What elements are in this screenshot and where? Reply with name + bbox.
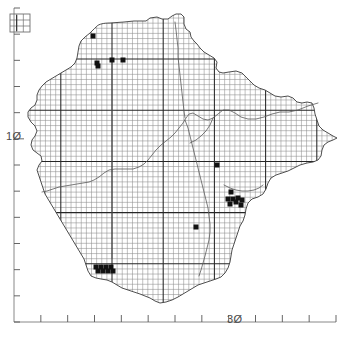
record-dot xyxy=(101,269,106,274)
map-grid xyxy=(0,0,342,337)
distribution-map-figure: 1Ø 3Ø xyxy=(0,0,342,337)
record-dot xyxy=(229,190,234,195)
record-dot xyxy=(96,64,101,69)
axis-lines xyxy=(14,8,336,322)
record-dot xyxy=(106,269,111,274)
y-axis-tick-label-10: 1Ø xyxy=(6,130,22,142)
map-canvas xyxy=(0,0,342,337)
locator-inset-frame xyxy=(10,14,30,32)
record-dot xyxy=(228,202,233,207)
internal-district-boundaries xyxy=(42,22,318,276)
record-dot xyxy=(121,58,126,63)
record-dot xyxy=(226,197,231,202)
record-dot xyxy=(111,269,116,274)
record-dot xyxy=(91,34,96,39)
x-axis-tick-label-30: 3Ø xyxy=(227,313,243,325)
record-dot xyxy=(110,58,115,63)
left-axis-ticks xyxy=(14,8,24,322)
record-dot xyxy=(239,203,244,208)
locator-inset-grid xyxy=(10,14,30,32)
record-dot xyxy=(96,269,101,274)
record-dot xyxy=(215,163,220,168)
record-dot xyxy=(240,198,245,203)
record-dot xyxy=(194,225,199,230)
record-dot xyxy=(234,200,239,205)
county-coastline-outline xyxy=(28,14,337,303)
bottom-axis-ticks xyxy=(41,315,336,322)
